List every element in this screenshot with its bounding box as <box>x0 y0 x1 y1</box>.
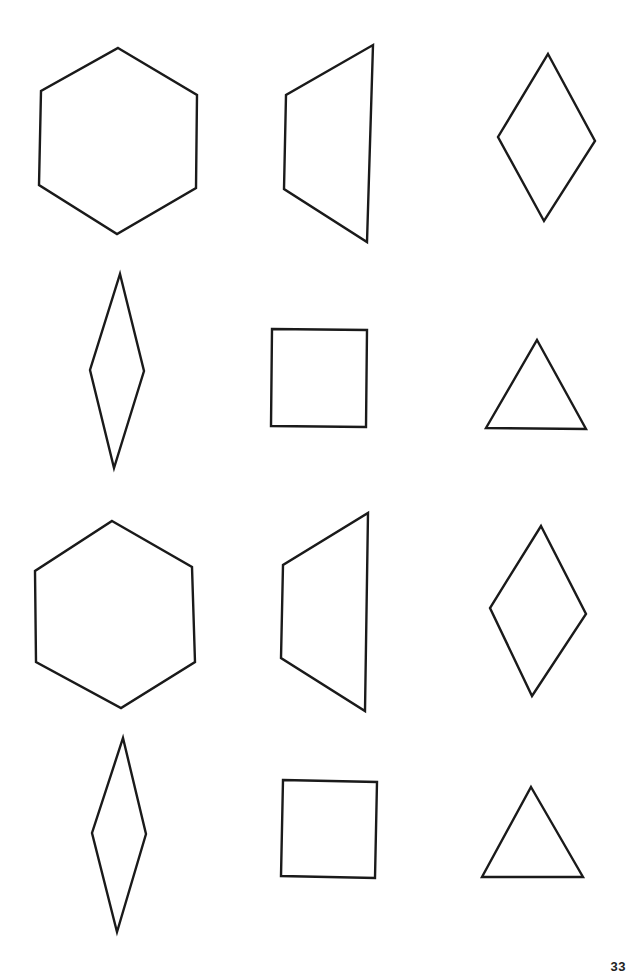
square-shape <box>281 780 377 878</box>
thin-rhombus-shape <box>92 738 146 932</box>
thin-rhombus-shape <box>90 274 144 468</box>
triangle-shape <box>482 787 583 877</box>
hexagon-shape <box>39 48 197 234</box>
square-shape <box>271 329 367 427</box>
triangle-shape <box>486 340 586 429</box>
trapezoid-shape <box>284 45 373 242</box>
hexagon-shape <box>35 521 195 708</box>
page-number: 33 <box>611 959 626 974</box>
rhombus-shape <box>498 54 595 221</box>
trapezoid-shape <box>281 513 368 711</box>
rhombus-shape <box>490 526 586 696</box>
